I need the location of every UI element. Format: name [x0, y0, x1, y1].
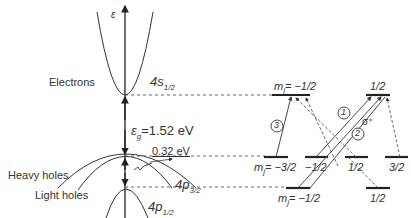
p12-state-label: 4p1/2: [148, 200, 174, 217]
split-energy-label: 0.32 eV: [152, 146, 190, 157]
vb-level-label-3: 1/2: [348, 162, 363, 173]
heavy-holes-label: Heavy holes: [8, 170, 69, 181]
electrons-label: Electrons: [49, 77, 95, 88]
vb-level-label-1: mj= −3/2: [254, 162, 296, 176]
transition-1-label: 1: [341, 108, 346, 117]
cb-level-label-1: mj= −1/2: [274, 81, 316, 95]
p32-state-label: 4p3/2: [175, 178, 201, 195]
band-diagram: [0, 0, 411, 218]
vb-level-label-2: −1/2: [305, 162, 327, 173]
s-state-label: 4s1/2: [150, 75, 175, 92]
so-level-label-2: 1/2: [370, 193, 385, 204]
so-level-label-1: mj= −1/2: [278, 193, 320, 207]
transition-2-label: 2: [355, 129, 360, 138]
sigma-plus-label: σ⁺: [362, 117, 373, 127]
transition-3-label: 3: [274, 121, 279, 130]
light-holes-label: Light holes: [35, 190, 88, 201]
cb-level-label-2: 1/2: [370, 81, 385, 92]
splitoff-band: [106, 189, 148, 218]
gap-label: εg=1.52 eV: [131, 124, 194, 141]
vb-level-label-4: 3/2: [389, 162, 404, 173]
energy-axis-label: ε: [111, 10, 115, 20]
